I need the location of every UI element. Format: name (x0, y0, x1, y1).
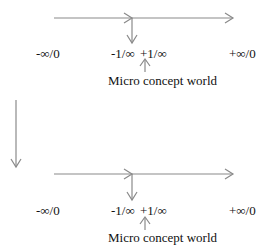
label-pos-micro: +1/∞ (140, 47, 167, 61)
panel-1-arrows (54, 13, 233, 72)
caption-micro-concept-world: Micro concept world (108, 74, 217, 88)
label-pos-micro: +1/∞ (140, 204, 167, 218)
label-pos-infinity: +∞/0 (229, 47, 256, 61)
label-pos-infinity: +∞/0 (229, 204, 256, 218)
label-neg-infinity: -∞/0 (36, 204, 60, 218)
label-neg-micro: -1/∞ (111, 204, 135, 218)
panel-2-arrows (54, 169, 233, 230)
connector-down-arrow (11, 100, 21, 167)
caption-micro-concept-world: Micro concept world (108, 231, 217, 245)
label-neg-infinity: -∞/0 (36, 47, 60, 61)
label-neg-micro: -1/∞ (111, 47, 135, 61)
